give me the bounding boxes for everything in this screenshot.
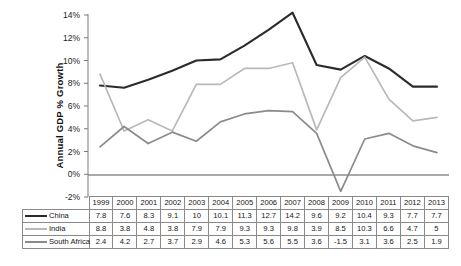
table-value-cell: 4.6 xyxy=(209,236,233,249)
table-value-cell: 9.8 xyxy=(281,223,305,236)
table-value-cell: 10 xyxy=(185,210,209,223)
table-value-cell: 9.3 xyxy=(257,223,281,236)
table-year-header: 2005 xyxy=(233,197,257,210)
table-year-header: 1999 xyxy=(89,197,113,210)
plot-area: 14%12%10%8%6%4%2%0%-2% xyxy=(0,0,461,200)
table-year-header: 2001 xyxy=(137,197,161,210)
table-value-cell: 5.3 xyxy=(233,236,257,249)
table-year-header: 2009 xyxy=(329,197,353,210)
legend-swatch-icon xyxy=(25,215,47,217)
y-tick-label: 2% xyxy=(68,147,81,157)
table-value-cell: 9.3 xyxy=(233,223,257,236)
table-value-cell: 4.8 xyxy=(137,223,161,236)
table-value-cell: 8.3 xyxy=(137,210,161,223)
table-year-header: 2004 xyxy=(209,197,233,210)
table-value-cell: 10.3 xyxy=(352,223,376,236)
table-value-cell: 3.6 xyxy=(305,236,329,249)
y-tick-label: 8% xyxy=(68,78,81,88)
data-series-group xyxy=(100,13,437,192)
table-value-cell: 7.9 xyxy=(185,223,209,236)
legend-swatch-icon xyxy=(25,241,47,243)
table-value-cell: -1.5 xyxy=(329,236,353,249)
table-year-header: 2000 xyxy=(113,197,137,210)
table-value-cell: 7.7 xyxy=(400,210,424,223)
table-value-cell: 3.8 xyxy=(113,223,137,236)
table-row: India8.83.84.83.87.97.99.39.39.83.98.510… xyxy=(23,223,449,236)
table-value-cell: 2.9 xyxy=(185,236,209,249)
y-tick-label: 0% xyxy=(68,169,81,179)
table-year-header: 2003 xyxy=(185,197,209,210)
table-value-cell: 6.6 xyxy=(376,223,400,236)
y-tick-label: 4% xyxy=(68,124,81,134)
table-value-cell: 1.9 xyxy=(424,236,448,249)
y-tick-label: 14% xyxy=(63,10,80,20)
table-row: South Africa2.44.22.73.72.94.65.35.65.53… xyxy=(23,236,449,249)
table-value-cell: 9.2 xyxy=(329,210,353,223)
table-year-header: 2007 xyxy=(281,197,305,210)
legend-cell-south-africa: South Africa xyxy=(23,236,90,249)
legend-label: China xyxy=(49,210,69,222)
data-table-container: 1999200020012002200320042005200620072008… xyxy=(22,196,449,249)
y-axis-ticks: 14%12%10%8%6%4%2%0%-2% xyxy=(63,10,88,200)
series-line-china xyxy=(100,13,437,88)
table-value-cell: 7.8 xyxy=(89,210,113,223)
table-corner-cell xyxy=(23,197,90,210)
legend-label: South Africa xyxy=(49,236,90,248)
table-value-cell: 7.9 xyxy=(209,223,233,236)
table-value-cell: 3.8 xyxy=(161,223,185,236)
table-value-cell: 3.9 xyxy=(305,223,329,236)
table-value-cell: 8.5 xyxy=(329,223,353,236)
table-value-cell: 7.6 xyxy=(113,210,137,223)
table-value-cell: 4.2 xyxy=(113,236,137,249)
table-value-cell: 14.2 xyxy=(281,210,305,223)
y-tick-label: 10% xyxy=(63,56,80,66)
legend-cell-india: India xyxy=(23,223,90,236)
table-value-cell: 2.4 xyxy=(89,236,113,249)
line-chart-svg: 14%12%10%8%6%4%2%0%-2% xyxy=(0,0,461,200)
data-table: 1999200020012002200320042005200620072008… xyxy=(22,196,449,249)
legend-swatch-icon xyxy=(25,228,47,230)
table-value-cell: 10.4 xyxy=(352,210,376,223)
table-value-cell: 5.6 xyxy=(257,236,281,249)
table-value-cell: 2.5 xyxy=(400,236,424,249)
table-row: China7.87.68.39.11010.111.312.714.29.69.… xyxy=(23,210,449,223)
table-value-cell: 2.7 xyxy=(137,236,161,249)
series-line-south-africa xyxy=(100,111,437,192)
table-value-cell: 5.5 xyxy=(281,236,305,249)
table-body: China7.87.68.39.11010.111.312.714.29.69.… xyxy=(23,210,449,249)
table-value-cell: 8.8 xyxy=(89,223,113,236)
table-value-cell: 5 xyxy=(424,223,448,236)
table-value-cell: 3.6 xyxy=(376,236,400,249)
y-tick-label: 12% xyxy=(63,33,80,43)
chart-figure: Annual GDP % Growth 14%12%10%8%6%4%2%0%-… xyxy=(0,0,461,266)
table-value-cell: 11.3 xyxy=(233,210,257,223)
table-year-header: 2013 xyxy=(424,197,448,210)
table-value-cell: 4.7 xyxy=(400,223,424,236)
table-value-cell: 9.6 xyxy=(305,210,329,223)
table-value-cell: 12.7 xyxy=(257,210,281,223)
table-value-cell: 9.1 xyxy=(161,210,185,223)
y-tick-label: 6% xyxy=(68,101,81,111)
table-value-cell: 3.7 xyxy=(161,236,185,249)
table-value-cell: 9.3 xyxy=(376,210,400,223)
legend-cell-china: China xyxy=(23,210,90,223)
table-year-header: 2002 xyxy=(161,197,185,210)
table-year-header: 2011 xyxy=(376,197,400,210)
table-year-header: 2008 xyxy=(305,197,329,210)
table-year-header: 2010 xyxy=(352,197,376,210)
table-value-cell: 7.7 xyxy=(424,210,448,223)
table-year-header: 2006 xyxy=(257,197,281,210)
table-year-header: 2012 xyxy=(400,197,424,210)
table-value-cell: 3.1 xyxy=(352,236,376,249)
table-value-cell: 10.1 xyxy=(209,210,233,223)
table-header-row: 1999200020012002200320042005200620072008… xyxy=(23,197,449,210)
legend-label: India xyxy=(49,223,65,235)
